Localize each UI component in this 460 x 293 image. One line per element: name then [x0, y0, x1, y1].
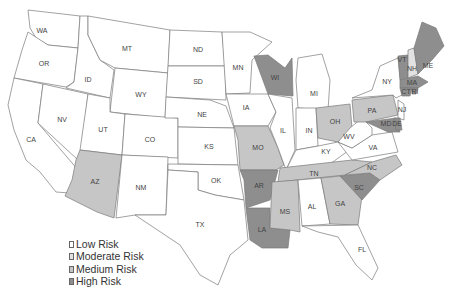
state-ks: KS	[178, 127, 238, 165]
state-label: RI	[412, 88, 419, 95]
state-nm: NM	[116, 155, 168, 218]
state-wi: WI	[254, 55, 293, 96]
legend-swatch-high	[69, 278, 74, 285]
state-label: AR	[254, 182, 264, 189]
state-me: ME	[414, 22, 444, 74]
state-label: VT	[398, 56, 408, 63]
state-label: UT	[98, 126, 108, 133]
state-label: ND	[193, 46, 203, 53]
legend-label-low: Low Risk	[76, 238, 119, 250]
state-label: AL	[308, 203, 317, 210]
state-shape	[296, 54, 330, 110]
state-label: FL	[358, 246, 366, 253]
state-label: KY	[321, 148, 331, 155]
state-label: CA	[26, 136, 36, 143]
state-ia: IA	[226, 94, 276, 126]
state-label: MA	[407, 79, 418, 86]
state-fl: FL	[302, 225, 378, 280]
state-label: WY	[135, 91, 147, 98]
state-label: IN	[306, 127, 313, 134]
state-label: LA	[258, 226, 267, 233]
state-label: OK	[211, 177, 221, 184]
state-shape	[302, 225, 378, 280]
state-ri: RI	[412, 88, 419, 95]
state-label: OR	[39, 60, 50, 67]
legend-label-high: High Risk	[76, 275, 121, 287]
legend-label-medium: Medium Risk	[76, 263, 137, 275]
state-ct: CT	[400, 88, 412, 96]
state-shape	[270, 180, 300, 232]
state-label: MN	[233, 64, 244, 71]
state-label: DE	[392, 120, 402, 127]
state-label: MD	[381, 120, 392, 127]
state-label: AZ	[91, 178, 101, 185]
state-sd: SD	[166, 66, 226, 100]
state-label: NE	[197, 111, 207, 118]
state-label: MI	[310, 90, 318, 97]
state-label: WV	[343, 133, 355, 140]
state-label: NM	[136, 184, 147, 191]
state-label: WI	[271, 74, 280, 81]
state-label: CT	[401, 88, 411, 95]
state-nd: ND	[168, 30, 225, 66]
legend-item-medium: Medium Risk	[69, 263, 144, 275]
risk-map: WAORCAIDNVMTWYUTCOAZNMNDSDNEKSOKTXMNIAMO…	[0, 0, 460, 293]
state-label: IL	[280, 127, 286, 134]
state-label: KS	[204, 143, 214, 150]
state-label: SC	[354, 184, 364, 191]
state-label: NY	[382, 78, 392, 85]
legend-item-moderate: Moderate Risk	[69, 250, 144, 262]
legend: Low Risk Moderate Risk Medium Risk High …	[69, 238, 144, 288]
state-ny: NY	[352, 58, 402, 98]
legend-swatch-moderate	[69, 253, 74, 260]
legend-swatch-medium	[69, 266, 74, 273]
state-label: ME	[423, 62, 434, 69]
state-label: NV	[57, 116, 67, 123]
state-label: SD	[193, 78, 203, 85]
legend-swatch-low	[69, 241, 74, 248]
state-label: IA	[243, 104, 250, 111]
state-label: MO	[252, 144, 264, 151]
state-label: OH	[330, 118, 341, 125]
state-label: WA	[36, 27, 47, 34]
state-label: NH	[407, 65, 417, 72]
state-mi: MI	[296, 54, 330, 110]
state-label: MT	[122, 45, 133, 52]
legend-item-low: Low Risk	[69, 238, 144, 250]
state-label: TX	[196, 221, 205, 228]
state-pa: PA	[352, 95, 398, 122]
state-co: CO	[122, 114, 178, 158]
state-label: TN	[309, 170, 318, 177]
legend-item-high: High Risk	[69, 275, 144, 287]
state-label: GA	[335, 200, 345, 207]
state-nj: NJ	[398, 100, 407, 120]
state-wy: WY	[110, 68, 168, 118]
state-az: AZ	[65, 150, 122, 218]
state-label: VA	[369, 144, 378, 151]
state-ms: MS	[270, 180, 300, 232]
state-label: NC	[367, 164, 377, 171]
state-label: PA	[368, 107, 377, 114]
state-shape	[352, 58, 402, 98]
state-shape	[226, 94, 276, 126]
state-label: MS	[280, 208, 291, 215]
legend-label-moderate: Moderate Risk	[76, 250, 144, 262]
state-label: NJ	[398, 106, 407, 113]
state-label: CO	[145, 136, 156, 143]
state-label: ID	[85, 76, 92, 83]
state-in: IN	[296, 108, 318, 150]
